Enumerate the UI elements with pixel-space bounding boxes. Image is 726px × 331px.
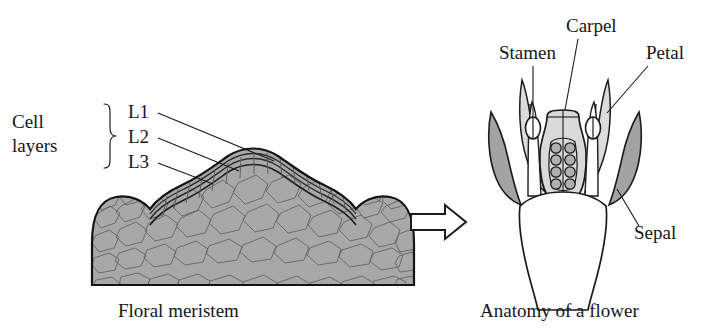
leader-line-sepal: [617, 189, 639, 226]
cell-layers-label-line1: Cell: [12, 111, 44, 132]
floral-meristem-diagram: Cell layers L1 L2 L3 Floral meristem: [12, 101, 417, 321]
cell-layers-brace-icon: [104, 104, 116, 168]
figure-root: Cell layers L1 L2 L3 Floral meristem: [0, 0, 726, 331]
ovule: [551, 179, 561, 189]
sepal-label: Sepal: [634, 222, 676, 243]
flower-anatomy-diagram: Stamen Carpel Petal Sepal Anatomy of a f…: [480, 15, 684, 321]
carpel-label: Carpel: [566, 15, 617, 36]
stamen-left: [528, 102, 541, 196]
layer-label-L3: L3: [128, 151, 149, 172]
ovule: [565, 155, 575, 165]
cell-layers-label-line2: layers: [12, 135, 57, 156]
stamen-right: [585, 102, 598, 196]
leader-line-petal: [607, 66, 648, 113]
anther-right: [586, 117, 601, 139]
leader-line-L1: [158, 113, 274, 161]
sepal-left: [489, 112, 521, 205]
layer-label-L1: L1: [128, 101, 149, 122]
ovule: [565, 179, 575, 189]
leader-line-carpel: [565, 39, 578, 110]
sepal-right: [609, 112, 641, 205]
receptacle: [519, 192, 606, 310]
ovule: [551, 143, 561, 153]
block-arrow-right-icon: [411, 205, 466, 239]
ovule: [565, 143, 575, 153]
figure-canvas: Cell layers L1 L2 L3 Floral meristem: [0, 0, 726, 331]
ovule: [565, 167, 575, 177]
anther-left: [526, 117, 541, 139]
flower-anatomy-caption: Anatomy of a flower: [480, 300, 639, 321]
transition-arrow: [411, 205, 466, 239]
layer-label-L2: L2: [128, 126, 149, 147]
floral-meristem-caption: Floral meristem: [118, 300, 239, 321]
petal-label: Petal: [646, 42, 684, 63]
ovule: [551, 167, 561, 177]
ovule: [551, 155, 561, 165]
leader-line-L2: [158, 138, 239, 171]
stamen-label: Stamen: [499, 42, 556, 63]
